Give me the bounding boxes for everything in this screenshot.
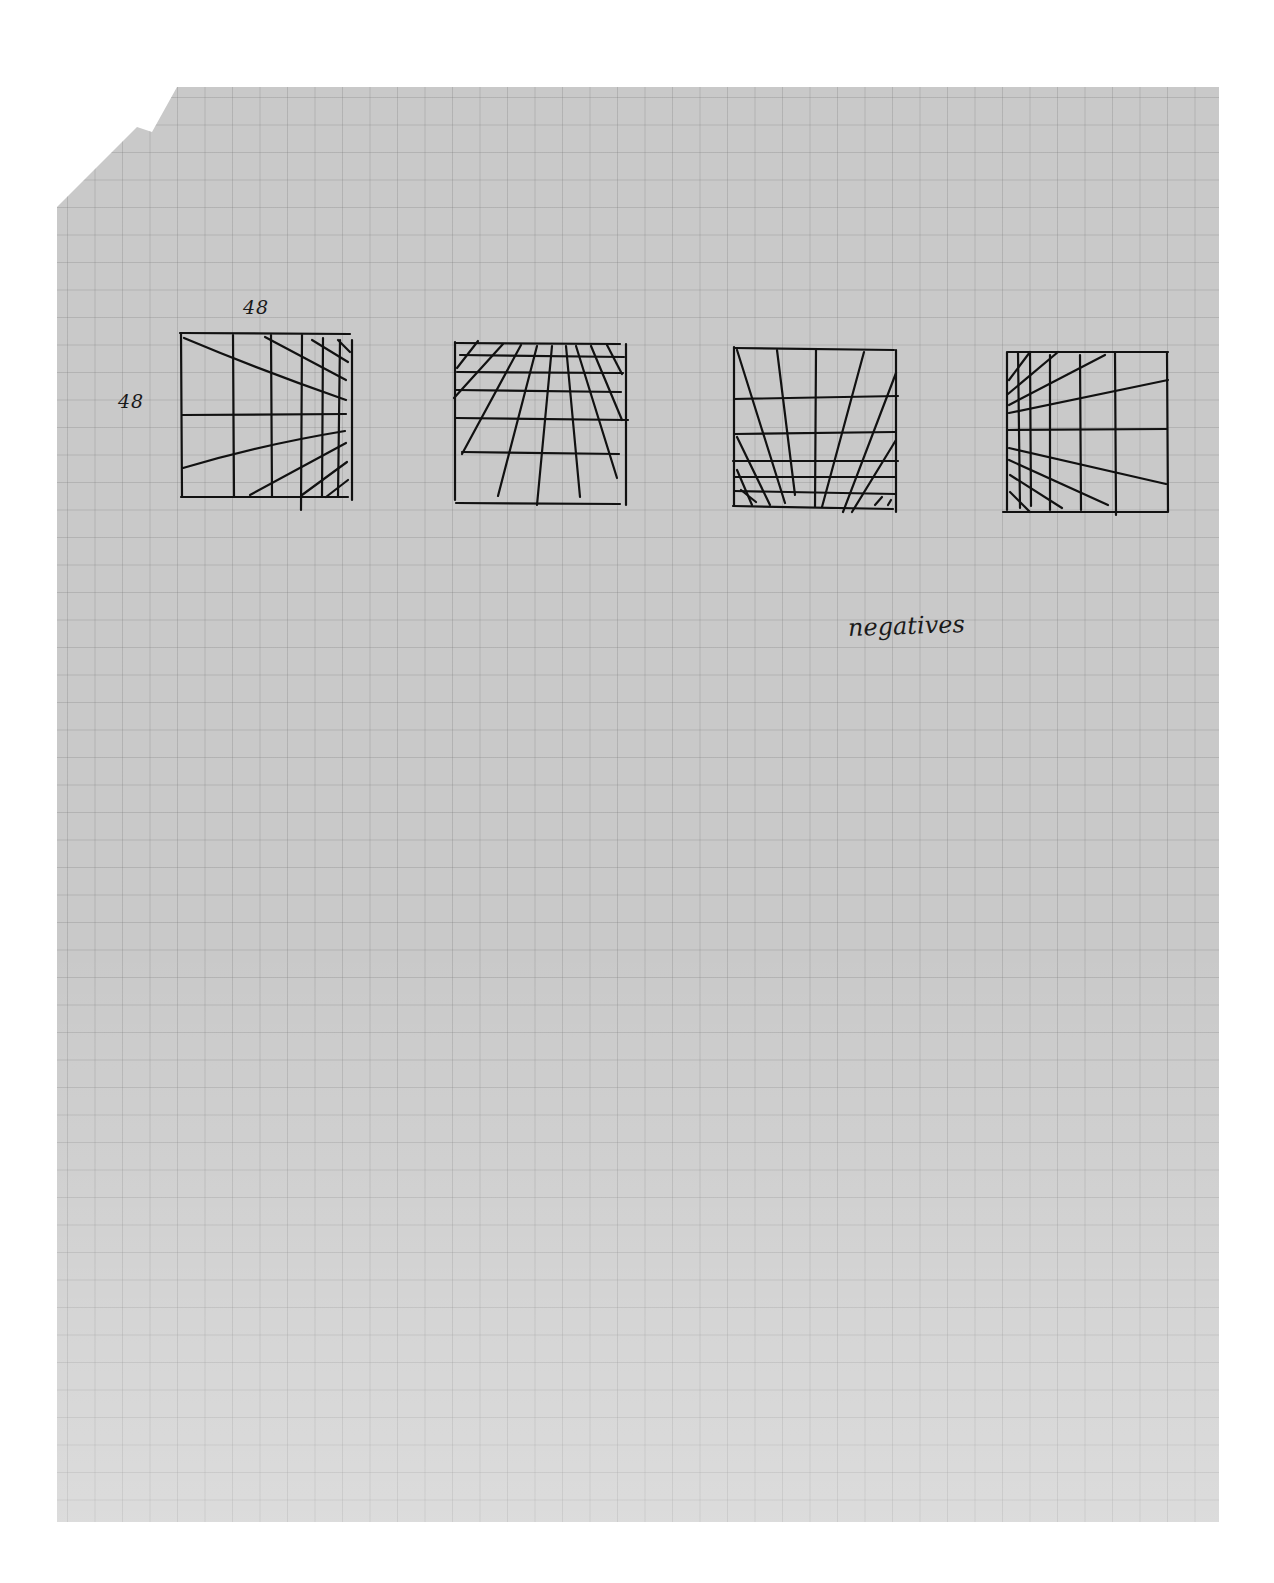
sketch-4-converge-left [0, 0, 1274, 1583]
